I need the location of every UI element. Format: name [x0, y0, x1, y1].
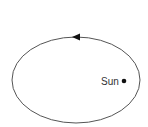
- orbit-direction-arrow-icon: [72, 34, 80, 41]
- sun-dot-icon: [122, 79, 127, 84]
- orbit-ellipse: [12, 37, 140, 123]
- orbit-diagram: Sun: [0, 0, 148, 127]
- sun-label: Sun: [101, 76, 119, 87]
